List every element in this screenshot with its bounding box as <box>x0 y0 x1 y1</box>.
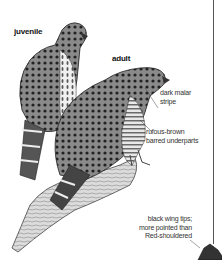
malar-stripe-label: dark malar stripe <box>160 89 191 106</box>
juvenile-label: juvenile <box>14 27 42 36</box>
underparts-label: rufous-brown barred underparts <box>146 128 198 145</box>
adult-label: adult <box>112 54 130 63</box>
wingtip-drawing <box>198 244 222 260</box>
wingtip-label: black wing tips; more pointed than Red-s… <box>130 215 192 241</box>
wingtip-leader-line <box>190 240 200 248</box>
divider-rule <box>213 0 214 244</box>
